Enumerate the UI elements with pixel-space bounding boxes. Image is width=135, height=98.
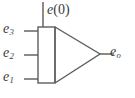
input-label-e2-base: e (3, 45, 9, 60)
input-label-e1-subscript: 1 (10, 75, 14, 85)
input-label-e2: e2 (3, 46, 14, 61)
output-label-eo-base: e (110, 44, 116, 59)
input-label-e3-subscript: 3 (10, 27, 14, 37)
output-label-eo: eo (110, 45, 121, 60)
output-label-eo-subscript: o (117, 50, 121, 60)
input-label-e1: e1 (3, 70, 14, 85)
input-label-e3-base: e (3, 21, 9, 36)
initial-condition-label: e(0) (47, 3, 70, 17)
diagram-canvas: e3 e2 e1 eo e(0) (0, 0, 135, 98)
initial-condition-argument: (0) (53, 2, 69, 17)
input-label-e1-base: e (3, 69, 9, 84)
input-label-e3: e3 (3, 22, 14, 37)
input-label-e2-subscript: 2 (10, 51, 14, 61)
